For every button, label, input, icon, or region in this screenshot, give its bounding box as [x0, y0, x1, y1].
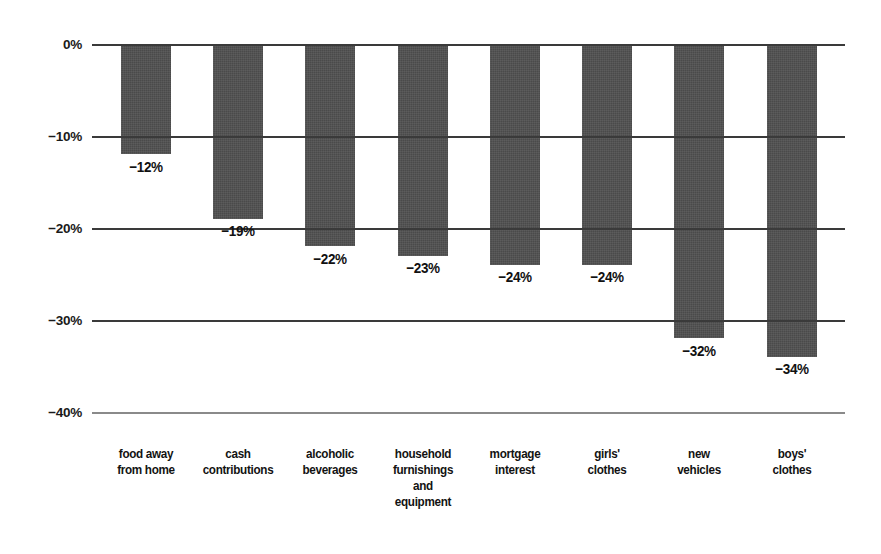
- gridline-0: [92, 44, 845, 46]
- plot-area: −12% −19% −22% −23% −24% −24% −32% −34%: [92, 44, 845, 412]
- y-axis-tick-label-0: 0%: [22, 37, 82, 52]
- bar-value-label-boys-clothes: −34%: [756, 360, 828, 377]
- gridline-40: [92, 412, 845, 414]
- y-axis-tick-label-4: −40%: [22, 405, 82, 420]
- bar-girls-clothes: [582, 44, 632, 265]
- bar-alcoholic-beverages: [305, 44, 355, 246]
- bar-value-label-household-furnishings: −23%: [387, 259, 459, 276]
- x-axis-category-label-boys-clothes: boys' clothes: [738, 446, 846, 478]
- bar-value-label-mortgage-interest: −24%: [479, 268, 551, 285]
- bar-household-furnishings: [398, 44, 448, 256]
- bar-value-label-cash-contributions: −19%: [202, 222, 274, 239]
- bar-chart: 0% −10% −20% −30% −40% −12% −19% −22% −2…: [0, 0, 881, 554]
- y-axis-tick-label-3: −30%: [22, 313, 82, 328]
- gridline-10: [92, 136, 845, 138]
- bar-new-vehicles: [674, 44, 724, 338]
- bar-cash-contributions: [213, 44, 263, 219]
- bar-value-label-new-vehicles: −32%: [663, 342, 735, 359]
- bar-boys-clothes: [767, 44, 817, 357]
- bar-value-label-alcoholic-beverages: −22%: [294, 250, 366, 267]
- bar-mortgage-interest: [490, 44, 540, 265]
- y-axis-tick-label-1: −10%: [22, 129, 82, 144]
- x-axis-category-label-alcoholic-beverages: alcoholic beverages: [276, 446, 384, 478]
- bar-value-label-girls-clothes: −24%: [571, 268, 643, 285]
- gridline-30: [92, 320, 845, 322]
- bar-value-label-food-away-from-home: −12%: [110, 158, 182, 175]
- x-axis-category-label-new-vehicles: new vehicles: [645, 446, 753, 478]
- y-axis-tick-label-2: −20%: [22, 221, 82, 236]
